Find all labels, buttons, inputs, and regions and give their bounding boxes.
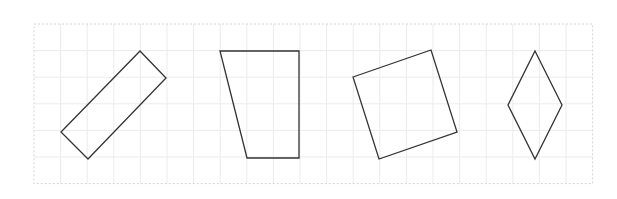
diagram-canvas — [0, 0, 617, 199]
trapezoid-shape — [220, 51, 299, 158]
rhombus-shape — [508, 51, 562, 159]
square-rotated-shape — [353, 50, 457, 159]
shapes-group — [61, 50, 562, 159]
